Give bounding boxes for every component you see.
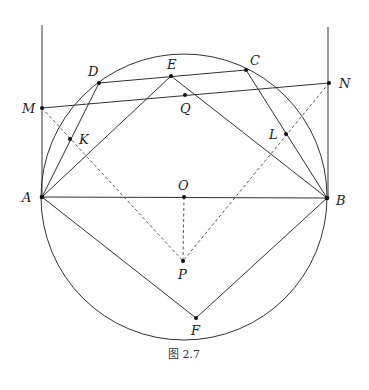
label-n: N [338,76,351,91]
label-d: D [87,64,99,79]
segment-af [42,197,196,318]
figure-caption: 图 2.7 [168,348,200,361]
point-m [40,106,44,110]
label-f: F [190,323,201,338]
point-a [40,195,45,200]
label-c: C [250,53,260,68]
point-c [244,68,248,72]
point-k [68,137,72,141]
label-q: Q [180,101,191,116]
segment-ae [42,76,171,197]
dashed-np [183,83,329,261]
segment-fb [196,198,327,318]
point-b [325,196,330,201]
point-d [97,81,101,85]
label-p: P [177,267,187,282]
point-f [194,316,198,320]
label-o: O [178,178,189,193]
label-e: E [166,57,177,72]
label-a: A [21,190,31,205]
label-b: B [335,193,346,208]
label-l: L [268,127,278,142]
point-o [182,195,186,199]
point-l [284,132,288,136]
label-m: M [21,101,36,116]
label-k: K [78,132,90,147]
point-q [183,93,187,97]
point-e [169,74,173,78]
dashed-op [183,197,184,261]
point-p [181,259,185,263]
geometry-figure: A B O P F D E C M N Q K L 图 2.7 [0,0,369,390]
point-n [327,81,331,85]
